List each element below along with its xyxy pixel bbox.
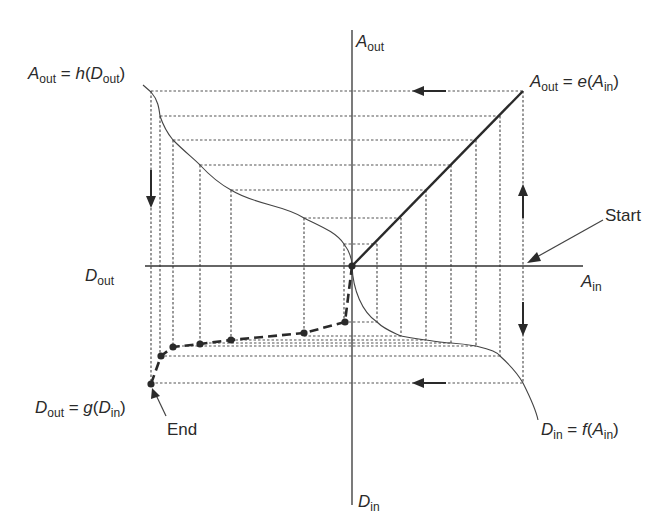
fn: g [83, 398, 92, 417]
arg: A [593, 72, 604, 91]
fn: e [577, 72, 586, 91]
eq: = [64, 398, 83, 417]
arg: A [592, 420, 603, 439]
eq: = [56, 64, 75, 83]
h-function-curve [143, 85, 352, 266]
g-function-dashed-path [151, 266, 352, 384]
sub: out [367, 40, 384, 54]
arrow-up-right-icon [518, 184, 528, 218]
sub: out [97, 274, 114, 288]
fn: h [75, 64, 84, 83]
lhs-sub: out [541, 80, 558, 94]
d-in-axis-label: Din [358, 492, 380, 512]
d-out-axis-label: Dout [85, 266, 114, 286]
lhs-sub: out [39, 72, 56, 86]
a-out-axis-label: Aout [356, 32, 384, 52]
g-point [169, 343, 176, 350]
start-label: Start [605, 206, 641, 226]
arg-sub: out [103, 72, 120, 86]
lhs-sub: out [47, 406, 64, 420]
a-in-axis-label: Ain [581, 272, 602, 292]
arg-sub: in [111, 406, 120, 420]
end-label: End [167, 420, 197, 440]
e-function-label: Aout = e(Ain) [530, 72, 619, 92]
g-point [157, 352, 164, 359]
arrow-left-bottom-icon [412, 378, 446, 388]
var: A [356, 32, 367, 51]
arg-sub: in [604, 428, 613, 442]
var: A [581, 272, 592, 291]
fn: f [582, 420, 587, 439]
f-function-label: Din = f(Ain) [541, 420, 619, 440]
e-function-line [352, 91, 523, 266]
lhs: D [35, 398, 47, 417]
arrow-down-right-icon [518, 302, 528, 336]
var: D [85, 266, 97, 285]
sub: in [592, 280, 601, 294]
arg: D [91, 64, 103, 83]
start-pointer-icon [527, 220, 603, 263]
g-point [196, 340, 203, 347]
h-function-label: Aout = h(Dout) [28, 64, 125, 84]
var: D [358, 492, 370, 511]
g-point [341, 318, 348, 325]
arrow-down-left-icon [146, 170, 156, 208]
lhs-sub: in [553, 428, 562, 442]
sub: in [370, 500, 379, 514]
lhs: A [530, 72, 541, 91]
g-function-label: Dout = g(Din) [35, 398, 126, 418]
arrow-left-top-icon [412, 86, 446, 96]
g-iteration-points [147, 262, 355, 387]
eq: = [558, 72, 577, 91]
g-point [147, 380, 154, 387]
g-point [300, 329, 307, 336]
end-pointer-icon [151, 388, 166, 416]
g-point [348, 262, 355, 269]
arg-sub: in [604, 80, 613, 94]
arg: D [98, 398, 110, 417]
lhs: A [28, 64, 39, 83]
eq: = [563, 420, 582, 439]
f-function-curve [352, 266, 538, 420]
lhs: D [541, 420, 553, 439]
g-point [227, 336, 234, 343]
